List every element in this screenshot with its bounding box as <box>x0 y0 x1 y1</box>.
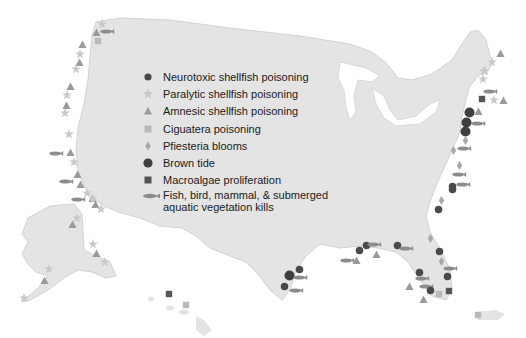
legend: Neurotoxic shellfish poisoning Paralytic… <box>141 68 381 219</box>
legend-item-paralytic: Paralytic shellfish poisoning <box>141 85 381 102</box>
legend-item-macroalgae: Macroalgae proliferation <box>141 172 381 189</box>
circle-small-icon <box>141 70 163 84</box>
alaska-landmass <box>22 204 116 302</box>
legend-item-ciguatera: Ciguatera poisoning <box>141 120 381 137</box>
legend-item-amnesic: Amnesic shellfish poisoning <box>141 103 381 120</box>
legend-item-kills: Fish, bird, mammal, & submerged aquatic … <box>141 189 381 219</box>
fish-icon <box>141 189 163 203</box>
legend-label: Amnesic shellfish poisoning <box>163 105 298 117</box>
legend-item-neurotoxic: Neurotoxic shellfish poisoning <box>141 68 381 85</box>
circle-large-icon <box>141 156 163 170</box>
legend-label: Macroalgae proliferation <box>163 174 281 186</box>
legend-label-line1: Fish, bird, mammal, & submerged <box>163 189 328 201</box>
diamond-icon <box>141 139 163 153</box>
legend-item-brown-tide: Brown tide <box>141 154 381 171</box>
legend-label: Paralytic shellfish poisoning <box>163 88 298 100</box>
legend-label: Brown tide <box>163 157 215 169</box>
legend-label: Fish, bird, mammal, & submerged aquatic … <box>163 189 328 213</box>
triangle-icon <box>141 104 163 118</box>
legend-label-line2: aquatic vegetation kills <box>163 201 274 213</box>
legend-label: Ciguatera poisoning <box>163 123 261 135</box>
hawaii-islands <box>148 297 212 337</box>
square-light-icon <box>141 122 163 136</box>
star-icon <box>141 87 163 101</box>
legend-item-pfiesteria: Pfiesteria blooms <box>141 137 381 154</box>
legend-label: Pfiesteria blooms <box>163 140 247 152</box>
legend-label: Neurotoxic shellfish poisoning <box>163 71 309 83</box>
square-dark-icon <box>141 173 163 187</box>
